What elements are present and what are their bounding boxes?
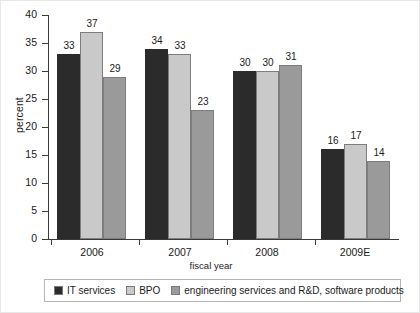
x-axis-tick-label: 2007	[140, 246, 220, 258]
legend-item-label: IT services	[67, 285, 115, 296]
bar	[279, 65, 302, 239]
legend-swatch-icon	[126, 286, 135, 295]
y-axis-tick-label: 20	[0, 120, 37, 132]
bar	[344, 144, 367, 239]
legend-item-label: engineering services and R&D, software p…	[184, 285, 404, 296]
y-axis-tick-label: 0	[0, 232, 37, 244]
bar-value-label: 14	[359, 147, 399, 158]
bar	[321, 149, 344, 239]
y-axis-tick	[42, 99, 49, 100]
y-axis-tick-label: 35	[0, 36, 37, 48]
bar-value-label: 17	[336, 130, 376, 141]
bar-value-label: 23	[183, 96, 223, 107]
x-axis-tick	[51, 239, 52, 245]
y-axis-tick-label: 5	[0, 204, 37, 216]
bar-value-label: 29	[95, 63, 135, 74]
legend-item[interactable]: BPO	[126, 285, 160, 296]
bar-value-label: 31	[271, 51, 311, 62]
bar	[103, 77, 126, 239]
legend-item-label: BPO	[139, 285, 160, 296]
y-axis-tick	[42, 71, 49, 72]
y-axis-tick	[42, 211, 49, 212]
bar-value-label: 37	[72, 18, 112, 29]
x-axis-tick	[315, 239, 316, 245]
bar	[367, 161, 390, 239]
x-axis-title: fiscal year	[1, 260, 420, 271]
x-axis-tick-label: 2009E	[315, 246, 395, 258]
x-axis-tick-label: 2006	[52, 246, 132, 258]
y-axis-tick-label: 40	[0, 8, 37, 20]
x-axis-tick	[227, 239, 228, 245]
chart-figure: percent 0510152025303540 333729343323303…	[0, 0, 420, 313]
x-axis-tick-label: 2008	[227, 246, 307, 258]
legend-swatch-icon	[54, 286, 63, 295]
legend-item[interactable]: engineering services and R&D, software p…	[171, 285, 404, 296]
bar	[233, 71, 256, 239]
x-axis-tick	[139, 239, 140, 245]
x-axis-line	[48, 239, 399, 240]
y-axis-tick-label: 10	[0, 176, 37, 188]
y-axis-tick-label: 30	[0, 64, 37, 76]
bar-value-label: 33	[160, 40, 200, 51]
bar	[256, 71, 279, 239]
y-axis-title: percent	[13, 75, 25, 155]
legend-swatch-icon	[171, 286, 180, 295]
y-axis-tick	[42, 43, 49, 44]
legend-item[interactable]: IT services	[54, 285, 115, 296]
bar	[57, 54, 80, 239]
bar	[168, 54, 191, 239]
y-axis-tick	[42, 15, 49, 16]
y-axis-tick	[42, 183, 49, 184]
bar	[145, 49, 168, 239]
chart-legend: IT servicesBPOengineering services and R…	[44, 279, 401, 302]
y-axis-tick	[42, 155, 49, 156]
y-axis-tick-label: 25	[0, 92, 37, 104]
bar	[191, 110, 214, 239]
y-axis-tick	[42, 127, 49, 128]
y-axis-tick-label: 15	[0, 148, 37, 160]
